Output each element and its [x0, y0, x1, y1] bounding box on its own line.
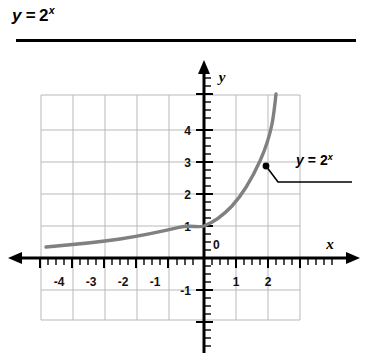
x-tick-label-neg4: -4 — [54, 275, 65, 289]
graph-figure: -4 -3 -2 -1 1 2 x — [0, 48, 371, 361]
page-title: y=2x — [12, 6, 55, 26]
y-tick-label-4: 4 — [184, 124, 191, 138]
x-tick-label-2: 2 — [265, 275, 272, 289]
title-equals: = — [22, 6, 39, 25]
y-axis-label: y — [217, 69, 226, 85]
x-tick-label-neg1: -1 — [150, 275, 161, 289]
title-block: y=2x — [0, 0, 371, 48]
annotation-label-equals: = — [308, 152, 316, 168]
annotation-point-marker — [263, 163, 270, 170]
annotation-label-base: 2 — [320, 152, 328, 168]
title-base: 2 — [39, 6, 49, 25]
x-tick-label-neg3: -3 — [86, 275, 97, 289]
annotation-label-exponent: x — [327, 152, 334, 162]
annotation-label-lhs: y — [295, 152, 305, 168]
figure-page: y=2x — [0, 0, 371, 361]
title-exponent: x — [49, 4, 55, 16]
annotation-label: y=2x — [295, 152, 334, 168]
y-tick-label-2: 2 — [184, 188, 191, 202]
title-divider — [16, 39, 356, 42]
y-tick-label-neg1: -1 — [180, 284, 191, 298]
y-tick-label-3: 3 — [184, 156, 191, 170]
title-lhs: y — [12, 6, 22, 25]
x-tick-label-neg2: -2 — [118, 275, 129, 289]
origin-label: 0 — [213, 238, 220, 252]
plot-grid — [41, 95, 300, 320]
x-tick-label-1: 1 — [233, 275, 240, 289]
x-axis-label: x — [325, 236, 334, 252]
